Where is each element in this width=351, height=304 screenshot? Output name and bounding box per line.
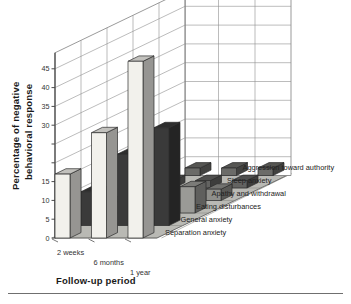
y-tick-label: 5	[46, 215, 50, 224]
y-tick-label: 40	[42, 83, 50, 92]
x-axis-title: Follow-up period	[56, 275, 136, 286]
series-label-separation-anxiety: Separation anxiety	[165, 228, 227, 237]
y-tick-label: 35	[42, 102, 50, 111]
y-axis: 05101530354045	[42, 53, 56, 243]
x-axis-category-labels: 2 weeks6 months1 year	[52, 239, 151, 277]
x-category-label-6-months: 6 months	[94, 258, 125, 267]
bar-separation-anxiety-6-months	[92, 127, 118, 238]
chart-back-wall	[182, 0, 291, 175]
series-label-apathy-and-withdrawal: Apathy and withdrawal	[212, 189, 287, 198]
bar-separation-anxiety-1-year	[128, 56, 154, 238]
series-label-eating-disturbances: Eating disturbances	[196, 202, 261, 211]
y-axis-title-line1: Percentage of negative	[10, 82, 21, 190]
bar-general-anxiety-1-year	[154, 122, 180, 225]
y-axis-title-line2: behavioral response	[23, 84, 34, 180]
y-tick-label: 15	[42, 177, 50, 186]
chart-canvas: 05101530354045 2 weeks6 months1 year Sep…	[0, 0, 351, 304]
y-tick-label: 45	[42, 64, 50, 73]
y-tick-label: 10	[42, 196, 50, 205]
series-label-general-anxiety: General anxiety	[181, 215, 233, 224]
footer-divider	[8, 293, 343, 294]
y-tick-label: 0	[46, 234, 50, 243]
y-tick-label: 30	[42, 121, 50, 130]
series-label-aggression-toward-authority: Aggression toward authority	[243, 163, 335, 172]
chart-3d-bar: 05101530354045 2 weeks6 months1 year Sep…	[0, 0, 351, 304]
x-category-label-2-weeks: 2 weeks	[57, 248, 84, 257]
y-axis-title: Percentage of negative behavioral respon…	[10, 82, 34, 190]
series-label-sleep-anxiety: Sleep anxiety	[227, 176, 272, 185]
bar-separation-anxiety-2-weeks	[55, 169, 81, 238]
